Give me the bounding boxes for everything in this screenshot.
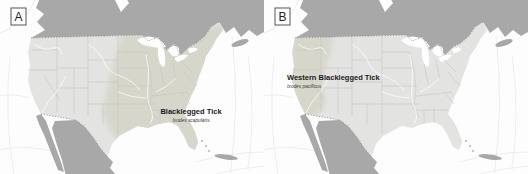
map-panel-b: B Western Blacklegged Tick Ixodes pacifi…: [264, 0, 528, 174]
western-blacklegged-tick-map: B Western Blacklegged Tick Ixodes pacifi…: [264, 0, 528, 174]
panel-letter-badge: B: [275, 8, 290, 25]
tick-distribution-figure: A Blacklegged Tick Ixodes scapularis B W…: [0, 0, 528, 174]
tick-name-label: Blacklegged Tick: [160, 107, 222, 116]
panel-letter: A: [14, 10, 22, 24]
panel-letter-badge: A: [11, 8, 26, 25]
blacklegged-tick-map: A Blacklegged Tick Ixodes scapularis: [0, 0, 264, 174]
tick-name-label: Western Blacklegged Tick: [287, 73, 381, 82]
scientific-name-label: Ixodes scapularis: [172, 118, 210, 123]
scientific-name-label: Ixodes pacificus: [287, 84, 322, 89]
panel-letter: B: [278, 10, 286, 24]
map-panel-a: A Blacklegged Tick Ixodes scapularis: [0, 0, 264, 174]
